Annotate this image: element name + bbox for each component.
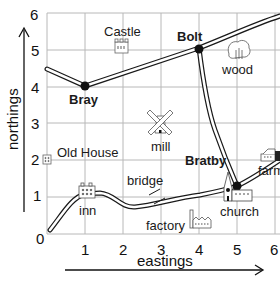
x-tick-5: 5 [233, 242, 241, 257]
y-tick-5: 5 [31, 43, 39, 58]
y-tick-0: 0 [36, 231, 44, 246]
y-tick-6: 6 [30, 7, 38, 22]
feature-label-factory: factory [146, 219, 185, 232]
feature-label-farm: farm [258, 164, 280, 177]
castle-icon [115, 39, 128, 53]
inn-icon [79, 183, 95, 198]
town-dot-bratby[interactable] [233, 182, 242, 191]
feature-label-bridge: bridge [127, 174, 163, 187]
x-tick-6: 6 [270, 242, 278, 257]
feature-label-mill: mill [151, 140, 171, 153]
y-axis-title: northings [5, 88, 20, 150]
feature-label-inn: inn [79, 204, 96, 217]
y-tick-4: 4 [31, 80, 39, 95]
y-tick-1: 1 [33, 188, 41, 203]
town-label-bratby[interactable]: Bratby [185, 154, 226, 167]
feature-label-old-house: Old House [57, 146, 118, 159]
feature-label-wood: wood [222, 63, 253, 76]
y-tick-3: 3 [31, 116, 39, 131]
house-icon [43, 155, 51, 164]
town-dot-bray[interactable] [81, 82, 90, 91]
x-tick-1: 1 [81, 242, 89, 257]
town-label-bolt[interactable]: Bolt [177, 30, 202, 43]
x-tick-2: 2 [119, 242, 127, 257]
y-tick-2: 2 [31, 152, 39, 167]
feature-label-church: church [220, 205, 259, 218]
tree-icon [228, 40, 250, 59]
feature-label-castle: Castle [104, 25, 141, 38]
x-axis-title: eastings [137, 253, 193, 268]
factory-icon [190, 210, 211, 228]
farm-icon [261, 149, 280, 161]
x-tick-4: 4 [195, 242, 203, 257]
town-label-bray[interactable]: Bray [69, 93, 98, 106]
town-dot-bolt[interactable] [195, 45, 204, 54]
